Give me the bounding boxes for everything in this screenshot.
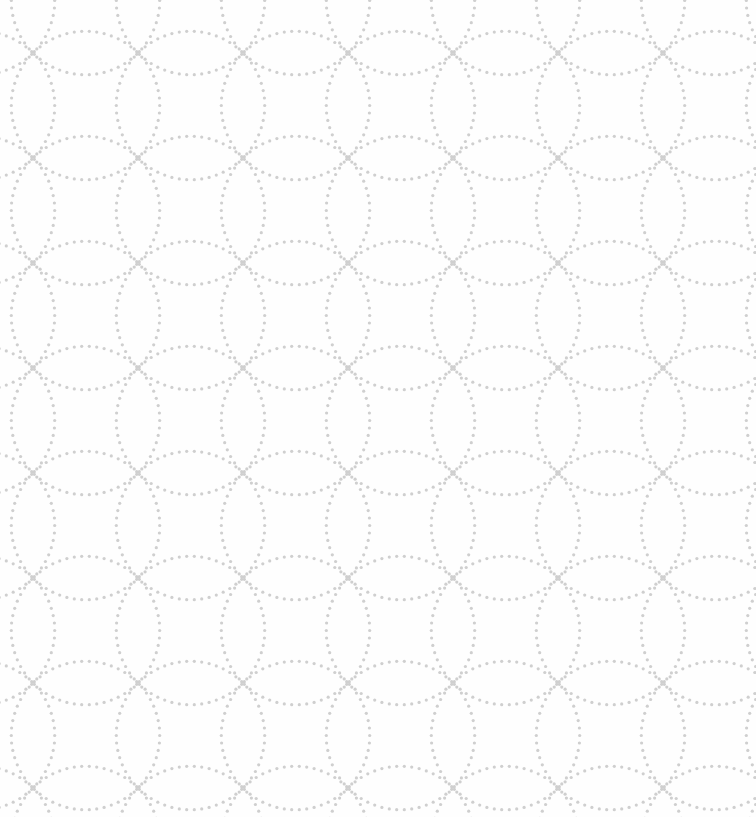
dotted-circle-pattern [0,0,756,817]
background-pattern [0,0,756,817]
